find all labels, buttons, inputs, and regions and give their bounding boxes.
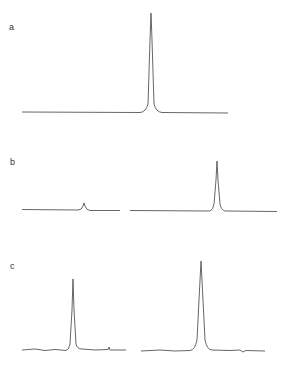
trace-a: [22, 13, 228, 113]
trace-c-right: [141, 261, 265, 352]
trace-c-left: [22, 279, 126, 351]
spectra-plot: [0, 0, 283, 365]
trace-b-left: [22, 203, 120, 211]
trace-b-right: [130, 161, 277, 212]
